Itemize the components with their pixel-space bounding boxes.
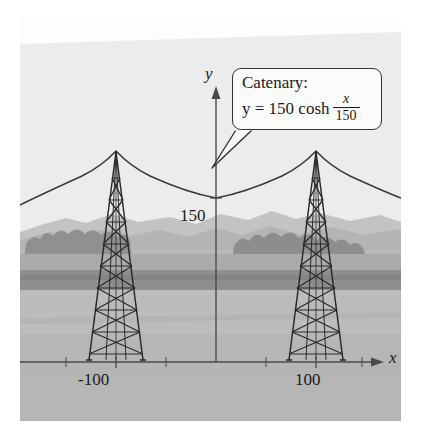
- callout-equation: y = 150 cosh x 150: [242, 93, 373, 124]
- equation-lhs: y = 150 cosh: [242, 98, 330, 119]
- river-band: [20, 270, 401, 291]
- fraction-denominator: 150: [333, 108, 360, 123]
- callout-title: Catenary:: [242, 73, 373, 93]
- y-axis-label: y: [205, 64, 213, 84]
- catenary-callout-box: Catenary: y = 150 cosh x 150: [232, 68, 382, 130]
- fraction-numerator: x: [340, 92, 352, 107]
- river-highlight: [20, 275, 401, 280]
- equation-fraction: x 150: [333, 92, 360, 123]
- x-tick-label-neg100: -100: [78, 370, 109, 390]
- catenary-figure: Catenary: y = 150 cosh x 150 y x 150 -10…: [0, 0, 424, 441]
- y-tick-label-150: 150: [180, 206, 206, 226]
- x-axis-label: x: [389, 348, 397, 368]
- x-tick-label-100: 100: [295, 370, 321, 390]
